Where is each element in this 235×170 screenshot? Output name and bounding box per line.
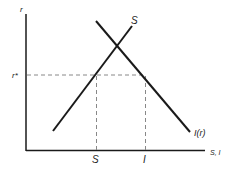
saving-curve-label: S [131,15,138,26]
r-star-label: r* [12,71,19,80]
y-axis-label: r [20,5,23,14]
x-axis-label: S, I [210,149,221,156]
investment-tick-label: I [143,154,146,165]
saving-investment-diagram: r r* S I(r) S I S, I [0,0,235,170]
investment-curve-label: I(r) [194,128,206,138]
saving-tick-label: S [92,154,99,165]
investment-curve [96,21,190,132]
saving-curve [53,26,132,131]
